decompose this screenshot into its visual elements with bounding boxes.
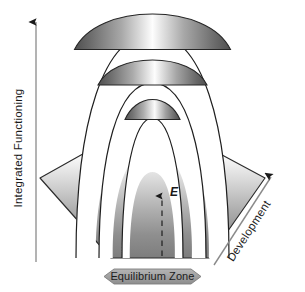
energy-arrow-label: E (170, 185, 179, 199)
zone-banner-label: Equilibrium Zone (110, 270, 194, 282)
y-axis-label: Integrated Functioning (12, 89, 24, 208)
y-axis-group: Integrated Functioning (12, 22, 36, 262)
equilibrium-zone-banner: Equilibrium Zone (104, 269, 201, 284)
figure-container: E Integrated Functioning Development Equ… (0, 0, 305, 292)
diagram-canvas: E Integrated Functioning Development Equ… (0, 0, 305, 292)
dome-large-cap (75, 14, 231, 50)
